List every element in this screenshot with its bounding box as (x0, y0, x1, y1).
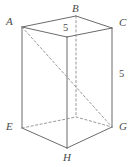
hidden-edge-F-G (76, 117, 112, 127)
edge-C-D (67, 28, 112, 37)
vertex-label-a: A (6, 16, 13, 27)
vertex-label-c: C (119, 17, 126, 28)
hidden-edge-E-F (22, 117, 76, 128)
side-edge-length: 5 (118, 69, 125, 80)
edge-H-G (67, 127, 112, 148)
vertex-label-h: H (63, 152, 71, 163)
vertex-label-e: E (6, 121, 13, 132)
vertex-label-b: B (72, 3, 79, 14)
edge-D-A (22, 27, 67, 37)
solid-edge-group (22, 16, 112, 148)
vertex-label-g: G (119, 121, 127, 132)
edge-E-H (22, 128, 67, 148)
top-edge-length: 5 (62, 23, 69, 34)
geometry-figure: ABCEGH 55 (0, 0, 135, 167)
edge-B-C (76, 16, 112, 28)
